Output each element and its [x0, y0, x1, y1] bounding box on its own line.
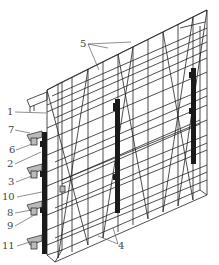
column-right — [191, 68, 196, 164]
column-middle — [115, 99, 120, 213]
label-6: 6 — [9, 145, 15, 155]
bracket-11 — [31, 242, 37, 249]
label-7: 7 — [8, 125, 14, 135]
part-10 — [60, 186, 65, 192]
label-10: 10 — [2, 192, 15, 202]
scaffold-drawing — [0, 0, 219, 265]
label-5: 5 — [80, 39, 86, 49]
label-3: 3 — [8, 177, 14, 187]
label-1: 1 — [7, 107, 13, 117]
column-left — [42, 132, 47, 254]
scaffold-diagram: 1 2 3 4 5 6 7 8 9 10 11 — [0, 0, 219, 265]
label-2: 2 — [7, 159, 13, 169]
bracket-3 — [31, 171, 37, 178]
label-8: 8 — [7, 208, 13, 218]
bracket-8 — [31, 208, 37, 215]
label-9: 9 — [7, 221, 13, 231]
label-4: 4 — [118, 241, 124, 251]
label-11: 11 — [2, 241, 15, 251]
